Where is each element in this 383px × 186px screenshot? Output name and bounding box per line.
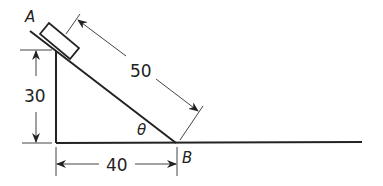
incline-line <box>30 31 176 143</box>
hyp-ext-top <box>66 14 80 34</box>
base-label: 40 <box>106 155 128 175</box>
ground-line <box>56 142 362 143</box>
angle-theta-label: θ <box>137 121 146 139</box>
hyp-arrow-down <box>156 79 198 111</box>
hyp-arrow-up <box>78 20 126 56</box>
hyp-ext-bottom <box>180 106 203 140</box>
inclined-plane-diagram: 30 40 50 A B θ <box>0 0 383 186</box>
height-label: 30 <box>24 86 46 106</box>
diagram-svg: 30 40 50 A B θ <box>0 0 383 186</box>
point-b-label: B <box>182 149 192 167</box>
point-a-label: A <box>24 8 35 26</box>
hypotenuse-label: 50 <box>130 61 152 81</box>
